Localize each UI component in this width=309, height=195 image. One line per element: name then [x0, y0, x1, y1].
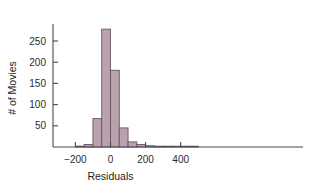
bars-group — [75, 29, 198, 147]
x-axis-title: Residuals — [87, 170, 133, 182]
histogram-bar — [128, 142, 137, 147]
y-axis-title: # of Movies — [6, 61, 18, 115]
histogram-bar — [111, 70, 120, 147]
chart-canvas: 50100150200250−2000200400Residuals# of M… — [0, 0, 309, 195]
x-axis-tick-label: −200 — [64, 154, 87, 165]
y-axis-tick-label: 100 — [29, 99, 46, 110]
histogram-bar — [93, 119, 102, 147]
histogram-bar — [119, 128, 128, 147]
x-axis-tick-label: 200 — [137, 154, 154, 165]
y-axis-tick-label: 150 — [29, 78, 46, 89]
histogram-figure: 50100150200250−2000200400Residuals# of M… — [0, 0, 309, 195]
axes-group — [53, 24, 303, 147]
labels-group: 50100150200250−2000200400Residuals# of M… — [6, 36, 189, 183]
y-axis-tick-label: 250 — [29, 36, 46, 47]
x-axis-tick-label: 0 — [108, 154, 114, 165]
y-axis-tick-label: 50 — [35, 120, 47, 131]
histogram-bar — [102, 29, 111, 147]
y-axis-tick-label: 200 — [29, 57, 46, 68]
x-axis-tick-label: 400 — [172, 154, 189, 165]
